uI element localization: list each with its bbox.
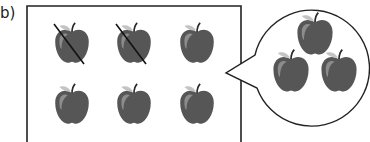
apple-icon	[180, 23, 214, 63]
apple-icon	[55, 23, 89, 63]
apple-grid	[54, 23, 214, 124]
apple-icon	[180, 84, 214, 124]
apple-icon	[55, 84, 89, 124]
apple-icon	[117, 23, 151, 63]
apple-icon	[117, 84, 151, 124]
figure	[0, 0, 370, 142]
